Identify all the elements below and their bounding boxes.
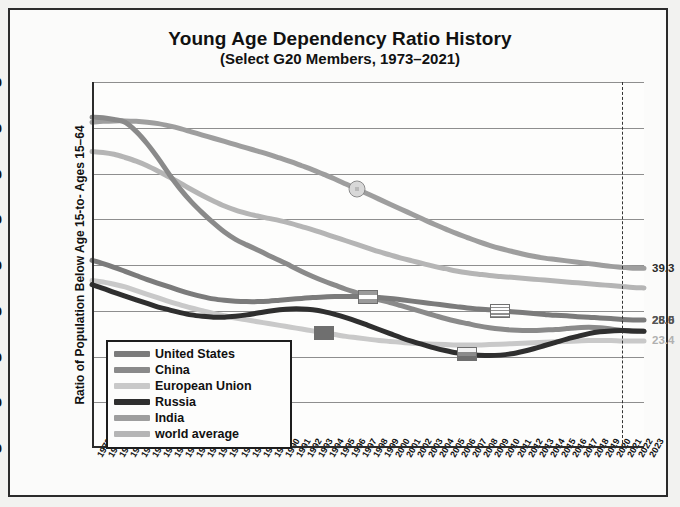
- legend-swatch-icon: [114, 415, 150, 421]
- legend-item-united-states[interactable]: United States: [114, 346, 284, 362]
- series-line-world-average: [92, 152, 644, 288]
- y-tick-label: 20: [0, 349, 2, 364]
- india-flag-marker: [348, 181, 365, 198]
- china-flag-marker: [358, 290, 378, 304]
- legend-item-label: China: [155, 364, 190, 377]
- reference-line-2021: [622, 82, 623, 448]
- chart-frame: Young Age Dependency Ratio History (Sele…: [8, 8, 668, 497]
- end-label-china: 25.5: [652, 314, 674, 326]
- legend-item-world-average[interactable]: world average: [114, 426, 284, 442]
- y-tick-label: 0: [0, 441, 2, 456]
- legend-item-european-union[interactable]: European Union: [114, 378, 284, 394]
- legend-item-label: European Union: [155, 380, 252, 393]
- legend-item-label: world average: [155, 428, 239, 441]
- y-tick-label: 50: [0, 212, 2, 227]
- legend-swatch-icon: [114, 431, 150, 437]
- legend: United StatesChinaEuropean UnionRussiaIn…: [106, 340, 292, 449]
- us-flag-marker: [490, 304, 510, 318]
- y-tick-label: 10: [0, 395, 2, 410]
- end-label-india: 39.3: [652, 262, 674, 274]
- legend-swatch-icon: [114, 399, 150, 405]
- legend-item-india[interactable]: India: [114, 410, 284, 426]
- end-label-european-union: 23.4: [652, 334, 674, 346]
- page-title: Young Age Dependency Ratio History: [10, 28, 670, 49]
- y-tick-label: 60: [0, 166, 2, 181]
- y-tick-label: 40: [0, 258, 2, 273]
- legend-item-russia[interactable]: Russia: [114, 394, 284, 410]
- legend-item-label: Russia: [155, 396, 196, 409]
- russia-flag-marker: [457, 347, 477, 361]
- eu-flag-marker: [314, 326, 334, 340]
- chart-subtitle: (Select G20 Members, 1973–2021): [10, 50, 670, 67]
- legend-item-label: United States: [155, 348, 235, 361]
- y-tick-label: 70: [0, 120, 2, 135]
- legend-item-label: India: [155, 412, 184, 425]
- y-axis-label: Ratio of Population Below Age 15-to- Age…: [73, 125, 87, 404]
- title-block: Young Age Dependency Ratio History (Sele…: [10, 28, 670, 68]
- legend-swatch-icon: [114, 367, 150, 373]
- y-tick-label: 30: [0, 303, 2, 318]
- legend-swatch-icon: [114, 351, 150, 357]
- legend-swatch-icon: [114, 383, 150, 389]
- chart-page: Young Age Dependency Ratio History (Sele…: [0, 0, 680, 507]
- y-tick-label: 80: [0, 75, 2, 90]
- y-axis: [92, 82, 94, 448]
- legend-item-china[interactable]: China: [114, 362, 284, 378]
